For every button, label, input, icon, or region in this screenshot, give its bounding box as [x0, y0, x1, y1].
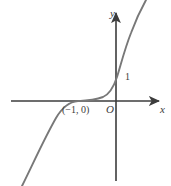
- y-axis-label: y: [110, 8, 115, 19]
- cubic-function-graph-figure: y x O (−1, 0) 1: [0, 0, 171, 186]
- origin-label: O: [106, 104, 114, 115]
- x-axis-label: x: [160, 104, 165, 115]
- cubic-curve: [22, 0, 146, 186]
- y-intercept-tick-label: 1: [125, 72, 130, 82]
- graph-canvas: [0, 0, 171, 186]
- x-intercept-point-label: (−1, 0): [62, 105, 89, 115]
